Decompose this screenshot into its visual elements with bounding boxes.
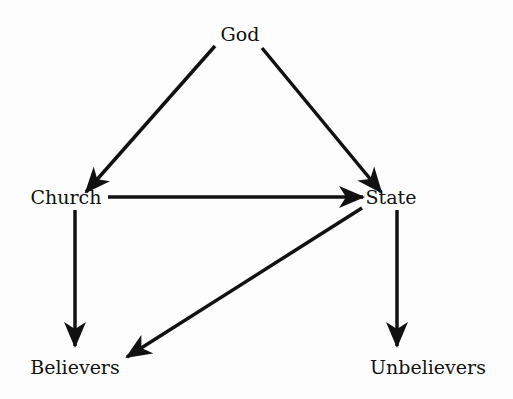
diagram-canvas: God Church State Believers Unbelievers: [0, 0, 513, 399]
edge-god-to-church: [86, 46, 215, 192]
node-unbelievers: Unbelievers: [370, 358, 486, 377]
node-state: State: [366, 188, 417, 207]
node-church: Church: [31, 188, 102, 207]
edge-state-to-believers: [127, 208, 362, 357]
node-believers: Believers: [30, 358, 119, 377]
node-god: God: [221, 25, 260, 44]
edge-god-to-state: [262, 48, 381, 192]
